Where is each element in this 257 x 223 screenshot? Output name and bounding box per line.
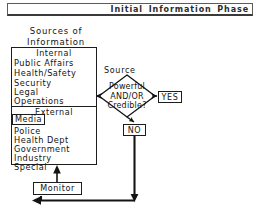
sources-panel-title-line1: Sources of [13,26,99,37]
source-item-media-highlighted[interactable]: Media [12,114,45,125]
decision-source-label: Source [104,66,136,75]
monitor-box[interactable]: Monitor [33,182,82,195]
phase-banner: Initial Information Phase [7,3,253,16]
connector-decision-to-no [127,117,134,122]
decision-question: Powerful AND/OR Credible? [101,82,153,111]
internal-external-divider [11,106,97,107]
sources-panel-title: Sources of Information [13,26,99,48]
source-item-health-safety: Health/Safety [14,68,76,78]
source-item-special: Special [14,162,47,172]
arrowhead-bus-left [32,196,41,204]
source-item-public-affairs: Public Affairs [14,58,74,68]
source-item-operations: Operations [14,96,64,106]
arrowhead-monitor-to-sources [53,165,61,174]
internal-group-heading: Internal [12,49,96,58]
decision-question-line1: Powerful [101,82,153,92]
decision-question-line2: AND/OR [101,92,153,102]
outcome-yes-box[interactable]: YES [158,91,182,103]
outcome-no-box[interactable]: NO [123,124,146,136]
phase-title: Initial Information Phase [111,5,249,14]
decision-question-line3: Credible? [101,101,153,111]
